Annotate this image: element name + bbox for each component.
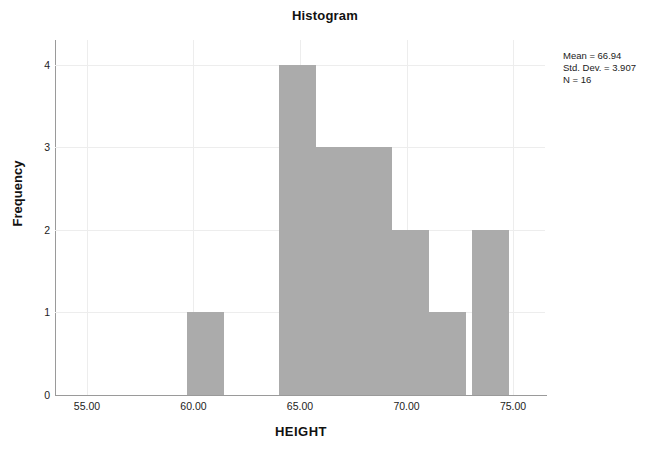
x-tick-label: 60.00 <box>153 400 233 412</box>
y-tick-label: 1 <box>10 306 50 318</box>
histogram-bar <box>279 65 316 395</box>
stat-std-dev: Std. Dev. = 3.907 <box>563 62 636 74</box>
plot-area <box>55 40 545 395</box>
x-tick-label: 65.00 <box>260 400 340 412</box>
x-axis-ticks: 55.0060.0065.0070.0075.00 <box>55 400 547 418</box>
gridline-vertical <box>513 40 514 395</box>
stat-n: N = 16 <box>563 74 636 86</box>
histogram-bar <box>316 147 353 395</box>
histogram-chart: Histogram 01234 55.0060.0065.0070.0075.0… <box>0 0 650 458</box>
x-axis-line <box>55 395 547 396</box>
histogram-bar <box>472 230 509 395</box>
histogram-bar <box>353 147 391 395</box>
y-axis-label: Frequency <box>10 94 25 294</box>
x-tick-label: 55.00 <box>47 400 127 412</box>
x-tick-label: 70.00 <box>367 400 447 412</box>
histogram-bar <box>392 230 429 395</box>
statistics-annotation: Mean = 66.94 Std. Dev. = 3.907 N = 16 <box>563 50 636 86</box>
y-tick-label: 0 <box>10 389 50 401</box>
chart-title: Histogram <box>0 8 650 23</box>
gridline-vertical <box>87 40 88 395</box>
histogram-bar <box>187 312 224 395</box>
histogram-bar <box>429 312 466 395</box>
stat-mean: Mean = 66.94 <box>563 50 636 62</box>
x-axis-label: HEIGHT <box>55 424 547 439</box>
x-tick-label: 75.00 <box>473 400 553 412</box>
y-tick-label: 4 <box>10 59 50 71</box>
